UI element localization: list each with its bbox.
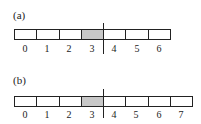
array-cell (171, 97, 192, 106)
index-label: 7 (170, 110, 192, 120)
array-cell-shaded (82, 30, 104, 39)
array-cell (60, 30, 82, 39)
array-cell (104, 97, 126, 106)
array-cell (60, 97, 82, 106)
index-label: 6 (148, 110, 170, 120)
index-label: 5 (125, 110, 147, 120)
index-label: 0 (14, 44, 36, 54)
array-cell (126, 30, 148, 39)
array-cell (15, 97, 37, 106)
array-cell (104, 30, 126, 39)
index-label: 1 (36, 110, 58, 120)
panel-a-label: (a) (13, 10, 25, 21)
array-cell-shaded (82, 97, 104, 106)
array-cell (126, 97, 148, 106)
array-a (14, 29, 171, 40)
index-label: 1 (36, 44, 58, 54)
index-label: 5 (126, 44, 148, 54)
panel-b-label: (b) (13, 75, 26, 86)
array-cell (37, 97, 59, 106)
index-label: 6 (148, 44, 170, 54)
index-label: 4 (103, 44, 125, 54)
array-cell (15, 30, 37, 39)
index-label: 3 (81, 110, 103, 120)
array-cell (37, 30, 59, 39)
index-label: 0 (14, 110, 36, 120)
index-label: 2 (58, 44, 80, 54)
array-cell (149, 30, 170, 39)
index-label: 2 (58, 110, 80, 120)
index-label: 3 (81, 44, 103, 54)
array-cell (149, 97, 171, 106)
index-label: 4 (103, 110, 125, 120)
